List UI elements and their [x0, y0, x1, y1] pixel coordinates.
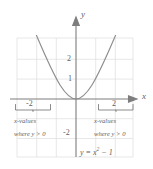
- grid-lines: [17, 38, 133, 157]
- equation-label: y = x2 − 1: [80, 147, 113, 157]
- right-annotation-line1: x-values: [94, 118, 116, 125]
- y-tick-label-neg2: -2: [63, 129, 70, 137]
- coordinate-plane-svg: [0, 0, 153, 169]
- graph-figure: y x 2 1 -2 -2 2 x-values where y > 0 x-v…: [0, 0, 153, 169]
- y-tick-label-1: 1: [68, 75, 72, 83]
- left-annotation-line1: x-values: [14, 118, 36, 125]
- x-brace-left-label: -2: [26, 100, 33, 108]
- y-axis-arrowhead: [73, 17, 80, 26]
- x-brace-right-label: 2: [112, 100, 116, 108]
- left-annotation-line2: where y > 0: [14, 131, 46, 138]
- y-tick-label-2: 2: [67, 55, 71, 63]
- y-axis-label: y: [81, 10, 85, 19]
- right-annotation-line2: where y > 0: [94, 131, 126, 138]
- left-brace: [16, 105, 51, 112]
- x-axis-label: x: [142, 92, 146, 101]
- equation-lhs: y = x: [80, 148, 97, 157]
- equation-exponent: 2: [97, 146, 100, 152]
- equation-rhs: − 1: [101, 148, 112, 157]
